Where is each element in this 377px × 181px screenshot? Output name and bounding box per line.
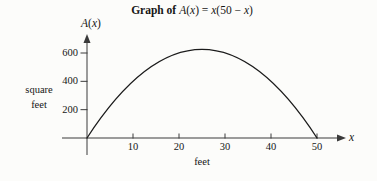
- x-tick-label: 30: [210, 141, 240, 152]
- y-tick-label: 200: [52, 104, 78, 116]
- x-tick-label: 10: [118, 141, 148, 152]
- y-axis-arrow-icon: [84, 34, 91, 43]
- area-function-curve: [87, 49, 317, 138]
- y-tick-label: 600: [52, 47, 78, 59]
- x-tick-label: 20: [164, 141, 194, 152]
- figure: Graph ofA(x) = x(50 − x) A(x) squarefeet…: [0, 0, 377, 181]
- x-tick-label: 50: [302, 141, 332, 152]
- y-tick-label: 400: [52, 75, 78, 87]
- x-tick-label: 40: [256, 141, 286, 152]
- x-axis-arrow-icon: [337, 135, 346, 142]
- plot-svg: [0, 0, 377, 181]
